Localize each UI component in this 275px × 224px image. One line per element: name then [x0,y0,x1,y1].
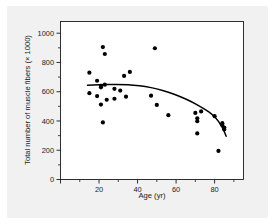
data-point [122,74,126,78]
data-point [95,94,99,98]
y-axis-tick-labels: 02004006008001000 [38,29,54,184]
data-point [216,149,220,153]
data-point [103,52,107,56]
data-point [118,88,122,92]
data-point [193,111,197,115]
data-point [195,119,199,123]
data-point [222,127,226,131]
data-point [95,79,99,83]
data-point [99,103,103,107]
data-point [195,131,199,135]
plot-frame [61,22,244,180]
data-point [101,120,105,124]
y-tick-label: 800 [42,58,54,67]
plot-area [61,22,244,180]
x-tick-label: 20 [95,185,103,194]
data-point [103,83,107,87]
data-point [155,103,159,107]
data-point [124,95,128,99]
scatter-chart: 20406080 02004006008001000 Age (yr) Tota… [0,0,275,224]
x-tick-label: 60 [172,185,180,194]
data-point [87,71,91,75]
data-point [101,45,105,49]
x-axis-label: Age (yr) [138,191,165,200]
y-axis-label: Total number of muscle fibers (× 1000) [23,35,32,165]
data-point [105,98,109,102]
data-point [112,87,116,91]
data-point [153,46,157,50]
x-axis-ticks [61,180,234,184]
y-tick-label: 200 [42,146,54,155]
figure-root: 20406080 02004006008001000 Age (yr) Tota… [0,0,275,224]
data-point [199,109,203,113]
y-tick-label: 1000 [38,29,54,38]
y-tick-label: 400 [42,117,54,126]
y-axis-ticks [57,33,61,179]
y-tick-label: 0 [50,175,54,184]
data-point [166,113,170,117]
data-point [87,91,91,95]
data-point [128,70,132,74]
x-tick-label: 80 [210,185,218,194]
data-point [99,85,103,89]
data-point [213,114,217,118]
data-point [149,94,153,98]
y-tick-label: 600 [42,87,54,96]
data-point [112,97,116,101]
